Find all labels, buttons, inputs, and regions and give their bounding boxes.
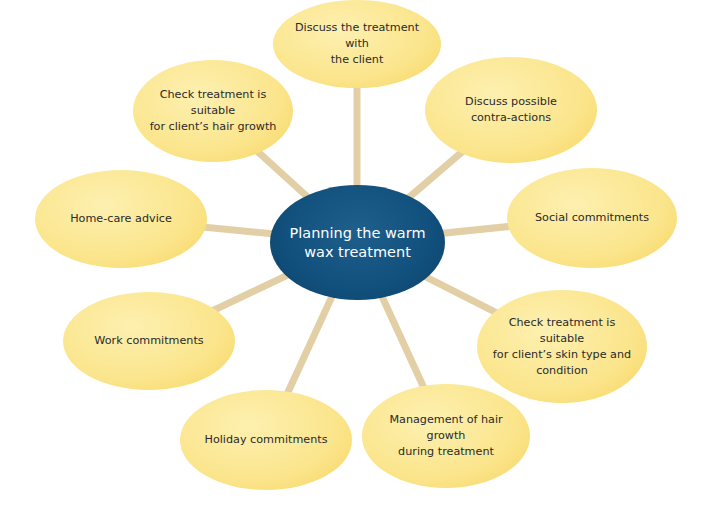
node-discuss-treatment: Discuss the treatment with the client xyxy=(273,0,441,88)
node-text-line: condition xyxy=(491,363,633,379)
node-text-line: during treatment xyxy=(376,444,516,460)
center-node: Planning the warm wax treatment xyxy=(270,185,445,300)
spider-diagram: Discuss the treatment with the client Di… xyxy=(0,0,714,512)
center-title-line: Planning the warm xyxy=(289,225,425,241)
node-text-line: for client’s skin type and xyxy=(491,347,633,363)
node-text-line: Holiday commitments xyxy=(205,432,328,448)
node-home-care: Home-care advice xyxy=(35,170,207,268)
node-hair-growth-management: Management of hair growth during treatme… xyxy=(362,384,530,488)
node-text-line: contra-actions xyxy=(465,110,557,126)
node-contra-actions: Discuss possible contra-actions xyxy=(425,57,597,163)
node-social: Social commitments xyxy=(507,168,677,268)
node-text-line: the client xyxy=(287,52,427,68)
node-text-line: Home-care advice xyxy=(70,211,172,227)
node-text-line: Check treatment is suitable xyxy=(147,87,279,119)
node-text-line: for client’s hair growth xyxy=(147,119,279,135)
node-text-line: Work commitments xyxy=(94,333,203,349)
node-text-line: Management of hair growth xyxy=(376,412,516,444)
node-text-line: Discuss possible xyxy=(465,94,557,110)
node-text-line: Discuss the treatment with xyxy=(287,20,427,52)
node-text-line: Check treatment is suitable xyxy=(491,315,633,347)
node-work: Work commitments xyxy=(63,292,235,390)
node-skin-type: Check treatment is suitable for client’s… xyxy=(477,290,647,403)
center-title-line: wax treatment xyxy=(304,244,411,260)
node-holiday: Holiday commitments xyxy=(180,390,352,490)
node-hair-growth-suitable: Check treatment is suitable for client’s… xyxy=(133,60,293,162)
node-text-line: Social commitments xyxy=(535,210,649,226)
